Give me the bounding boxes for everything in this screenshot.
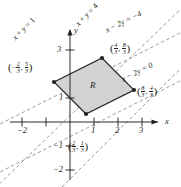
coord-right-x-denominator: 3 xyxy=(141,91,145,98)
y-axis-label: y xyxy=(74,26,78,35)
vertex-coord-label-bottom: (23, 13) xyxy=(68,140,88,154)
vertex-dot-bottom xyxy=(84,112,88,116)
vertex-dot-right xyxy=(132,88,136,92)
y-axis-arrowhead xyxy=(67,29,72,36)
y-tick-label-1: 1 xyxy=(59,93,63,102)
vertex-dot-top xyxy=(100,56,104,60)
coord-left-y-fraction: 53 xyxy=(25,61,29,75)
coord-top-x-denominator: 3 xyxy=(114,48,118,55)
y-tick-label--1: −1 xyxy=(53,141,63,150)
coord-left-x-denominator: 3 xyxy=(16,67,20,74)
paren-open: ( xyxy=(8,61,12,73)
coordinate-plane-figure: x y −2 1 2 3 3 1 −1 −2 R x + y = 1 x + y… xyxy=(0,0,181,187)
coord-left-x-fraction: 23 xyxy=(16,61,20,75)
x-tick-label-3: 3 xyxy=(139,126,143,135)
coord-bottom-x-fraction: 23 xyxy=(72,140,76,154)
vertex-coord-label-left: (−23, 53) xyxy=(8,61,32,75)
paren-close: ) xyxy=(29,61,33,73)
region-label-R: R xyxy=(90,81,96,90)
paren-close: ) xyxy=(153,85,157,97)
paren-close: ) xyxy=(126,42,130,54)
y-tick-label-3: 3 xyxy=(57,45,61,54)
x-tick-label-1: 1 xyxy=(91,126,95,135)
x-axis-label: x xyxy=(165,117,169,126)
coord-top-x-fraction: 43 xyxy=(114,42,118,56)
paren-close: ) xyxy=(84,140,88,152)
vertex-dot-left xyxy=(52,80,56,84)
y-tick-label--2: −2 xyxy=(53,165,63,174)
coord-left-y-denominator: 3 xyxy=(25,67,29,74)
x-axis-arrowhead xyxy=(152,119,159,124)
coord-bottom-x-denominator: 3 xyxy=(72,146,76,153)
x-tick-label--2: −2 xyxy=(17,126,27,135)
vertex-coord-label-right: (83, 43) xyxy=(137,85,157,99)
x-tick-label-2: 2 xyxy=(115,126,119,135)
coord-right-x-fraction: 83 xyxy=(141,85,145,99)
vertex-coord-label-top: (43, 83) xyxy=(110,42,130,56)
